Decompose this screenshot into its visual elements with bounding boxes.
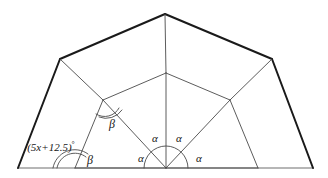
outer-edge-right-upper: [165, 14, 272, 59]
inner-chord-right: [230, 59, 272, 100]
outer-edge-left-upper: [60, 14, 165, 59]
outer-edge-right-lower: [272, 59, 313, 168]
degree-symbol: °: [72, 140, 75, 149]
inner-chord-left-top: [103, 73, 166, 100]
alpha-lower-right-label: α: [196, 153, 202, 164]
alpha-lower-left-label: α: [138, 153, 144, 164]
beta-lower-label: β: [87, 154, 93, 166]
segment-inner-right-to-base: [230, 100, 258, 168]
alpha-upper-left-label: α: [152, 133, 158, 144]
inner-chord-left: [60, 59, 103, 100]
angle-expression-text: (5x+12.5): [27, 141, 71, 153]
geometry-figure: (5x+12.5)° β β α α α α: [0, 0, 328, 178]
median-apex-to-inner-top: [165, 14, 166, 73]
beta-lower-angle-arc-outer: [57, 153, 86, 168]
angle-expression-label: (5x+12.5)°: [27, 141, 75, 154]
beta-upper-label: β: [109, 118, 115, 130]
inner-chord-right-top: [166, 73, 230, 100]
alpha-upper-right-label: α: [176, 133, 182, 144]
